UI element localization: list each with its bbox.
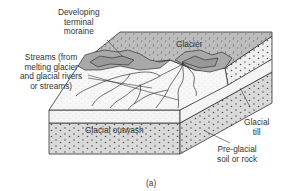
label-moraine: Developing terminal moraine (58, 8, 100, 37)
label-outwash: Glacial outwash (85, 126, 144, 136)
label-till: Glacial till (244, 118, 269, 137)
label-preglacial: Pre-glacial soil or rock (217, 145, 257, 164)
caption: (a) (146, 179, 156, 189)
label-glacier: Glacier (176, 40, 202, 50)
label-streams: Streams (from melting glacier and glacia… (20, 53, 82, 91)
